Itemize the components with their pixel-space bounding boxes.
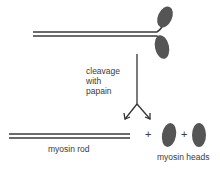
step-label-line: papain bbox=[86, 86, 120, 96]
myosin-heads-label: myosin heads bbox=[157, 152, 209, 162]
intact-myosin bbox=[33, 4, 176, 60]
step-label-line: with bbox=[86, 76, 120, 86]
lower-head-icon bbox=[153, 34, 172, 60]
cleavage-arrow-icon bbox=[124, 54, 150, 119]
step-label: cleavage with papain bbox=[86, 66, 120, 96]
step-label-line: cleavage bbox=[86, 66, 120, 76]
upper-head-icon bbox=[154, 4, 176, 30]
myosin-rod bbox=[9, 134, 130, 138]
myosin-rod-label: myosin rod bbox=[48, 144, 90, 154]
myosin-head-icon bbox=[192, 123, 206, 147]
myosin-head-icon bbox=[160, 122, 178, 148]
plus-sign: + bbox=[181, 129, 187, 139]
plus-sign: + bbox=[145, 129, 151, 139]
